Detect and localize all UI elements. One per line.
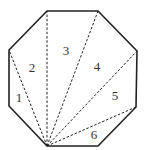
region-label-2: 2	[29, 60, 36, 75]
region-label-6: 6	[91, 127, 98, 142]
region-label-5: 5	[112, 88, 119, 103]
octagon-outline	[9, 11, 137, 146]
region-label-1: 1	[16, 90, 23, 105]
octagon-diagram: 1 2 3 4 5 6	[0, 0, 147, 150]
diagonal-3	[47, 11, 98, 146]
region-label-4: 4	[94, 59, 101, 74]
region-label-3: 3	[63, 43, 70, 58]
